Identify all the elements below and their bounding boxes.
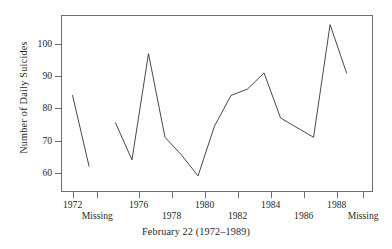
x-axis-tick bbox=[172, 192, 173, 198]
x-axis-tick-label: 1984 bbox=[241, 199, 301, 210]
x-axis-tick bbox=[337, 192, 338, 198]
y-axis-tick bbox=[55, 173, 61, 174]
y-axis-tick bbox=[55, 44, 61, 45]
x-axis-title: February 22 (1972–1989) bbox=[0, 226, 392, 237]
x-axis-tick bbox=[97, 192, 98, 198]
x-axis-tick-label: Missing bbox=[67, 210, 127, 221]
chart-figure: Number of Daily Suicides 60708090100 197… bbox=[0, 0, 392, 249]
y-axis-tick bbox=[55, 108, 61, 109]
x-axis-tick bbox=[304, 192, 305, 198]
x-axis-tick-label: 1986 bbox=[274, 210, 334, 221]
x-axis-tick-label: 1988 bbox=[307, 199, 367, 210]
y-axis-tick-label: 90 bbox=[12, 70, 52, 81]
y-axis-tick-label: 80 bbox=[12, 102, 52, 113]
y-axis-tick bbox=[55, 76, 61, 77]
x-axis-tick-label: 1978 bbox=[142, 210, 202, 221]
x-axis-tick-label: 1976 bbox=[109, 199, 169, 210]
x-axis-tick bbox=[238, 192, 239, 198]
x-axis-tick bbox=[139, 192, 140, 198]
x-axis-tick-label: 1982 bbox=[208, 210, 268, 221]
plot-area-frame bbox=[61, 15, 373, 192]
x-axis-tick bbox=[205, 192, 206, 198]
y-axis-tick-label: 60 bbox=[12, 167, 52, 178]
x-axis-tick bbox=[363, 192, 364, 198]
y-axis-tick bbox=[55, 141, 61, 142]
x-axis-tick-label: Missing bbox=[333, 210, 392, 221]
x-axis-tick-label: 1980 bbox=[175, 199, 235, 210]
y-axis-tick-label: 100 bbox=[12, 38, 52, 49]
x-axis-tick bbox=[73, 192, 74, 198]
y-axis-tick-label: 70 bbox=[12, 135, 52, 146]
x-axis-tick bbox=[271, 192, 272, 198]
x-axis-tick-label: 1972 bbox=[43, 199, 103, 210]
